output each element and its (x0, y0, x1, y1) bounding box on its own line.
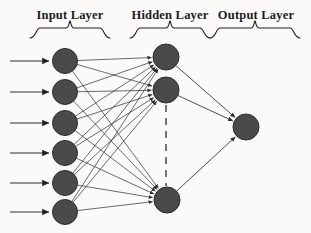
input-layer-label: Input Layer (30, 8, 110, 22)
diagram-canvas (0, 0, 311, 233)
edge-i1-h1 (76, 58, 151, 61)
input-arrows (10, 61, 49, 212)
edge-i4-h1 (73, 67, 155, 145)
edge-i4-h3 (75, 158, 153, 194)
edge-i5-h1 (72, 68, 157, 174)
edge-i3-h2 (76, 95, 152, 120)
layer-braces (30, 21, 300, 38)
edge-i2-h1 (76, 62, 152, 88)
neuron-i5 (53, 171, 78, 196)
neuron-h3 (154, 187, 180, 213)
neural-network-diagram: Input Layer Hidden Layer Output Layer (0, 0, 311, 233)
neuron-o1 (233, 114, 259, 140)
neuron-h2 (153, 77, 179, 103)
edge-i5-h3 (76, 185, 152, 198)
input-to-hidden-edges (71, 58, 158, 211)
brace-hidden (130, 21, 210, 38)
edge-i4-h2 (75, 98, 154, 147)
neuron-nodes (53, 44, 260, 225)
edge-i5-h2 (73, 100, 155, 175)
output-layer-label: Output Layer (210, 8, 302, 22)
hidden-to-output-edges (175, 65, 235, 192)
edge-i6-h3 (76, 202, 152, 211)
edge-h3-o1 (176, 137, 236, 192)
neuron-i3 (53, 111, 78, 136)
neuron-i4 (53, 141, 78, 166)
brace-input (30, 21, 110, 38)
brace-output (210, 21, 300, 38)
edge-h1-o1 (175, 65, 235, 118)
edge-i3-h3 (74, 130, 155, 191)
neuron-h1 (153, 44, 179, 70)
hidden-layer-label: Hidden Layer (128, 8, 212, 22)
neuron-i2 (53, 80, 78, 105)
neuron-i6 (53, 200, 78, 225)
neuron-i1 (53, 49, 78, 74)
edge-i6-h1 (71, 69, 158, 202)
